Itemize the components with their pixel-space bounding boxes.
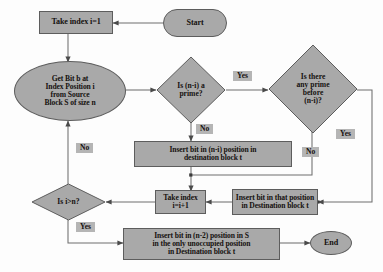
edge-label-before-no-text: No (306, 147, 315, 156)
node-is-i-gt-n[interactable]: Is i>n? (31, 183, 106, 221)
node-take-index-1-label: Take index i=1 (51, 18, 100, 27)
node-start[interactable]: Start (163, 9, 227, 37)
node-take-index-inc-line-2: i=i+1 (172, 202, 188, 210)
node-start-label: Start (186, 19, 203, 28)
edge-label-loop-no-text: No (80, 143, 89, 152)
node-any-prime-line-4: (n-i)? (304, 97, 322, 105)
node-take-index-1[interactable]: Take index i=1 (39, 11, 113, 34)
edge-label-before-yes-text: Yes (340, 129, 351, 138)
edge-label-prime-yes: Yes (233, 71, 252, 81)
node-insert-n2[interactable]: Insert bit in (n-2) position in S in the… (123, 228, 280, 260)
edge-label-prime-yes-text: Yes (237, 71, 248, 80)
flowchart-canvas: Start Take index i=1 Get Bit b at Index … (0, 0, 383, 272)
edge-label-loop-yes: Yes (76, 222, 95, 232)
edge-label-loop-no: No (76, 143, 93, 153)
edge-label-before-yes: Yes (336, 129, 355, 139)
edge-label-prime-no: No (196, 124, 213, 134)
node-get-bit-line-4: Block S of size n (44, 99, 95, 107)
node-get-bit[interactable]: Get Bit b at Index Position i from Sourc… (14, 61, 126, 121)
node-end-label: End (324, 239, 338, 248)
node-insert-n2-line-3: in Destination block t (168, 248, 235, 256)
node-any-prime-before[interactable]: Is there any prime before (n-i)? (268, 44, 358, 134)
node-is-prime-line-2: prime? (179, 90, 202, 98)
node-insert-ni[interactable]: Insert bit in (n-i) position in destinat… (134, 141, 292, 167)
edge-label-prime-no-text: No (200, 124, 209, 133)
node-is-i-gt-n-label: Is i>n? (57, 198, 79, 206)
node-insert-ni-line-2: destination block t (184, 154, 242, 162)
node-insert-that-position[interactable]: Insert bit in that position in Destinati… (232, 189, 318, 215)
edge-label-before-no: No (302, 147, 319, 157)
edge-label-loop-yes-text: Yes (80, 222, 91, 231)
node-insert-that-line-2: in Destination block t (241, 202, 308, 210)
node-is-prime[interactable]: Is (n-i) a prime? (156, 56, 226, 124)
node-end[interactable]: End (310, 231, 352, 255)
node-take-index-inc[interactable]: Take index i=i+1 (155, 190, 206, 214)
